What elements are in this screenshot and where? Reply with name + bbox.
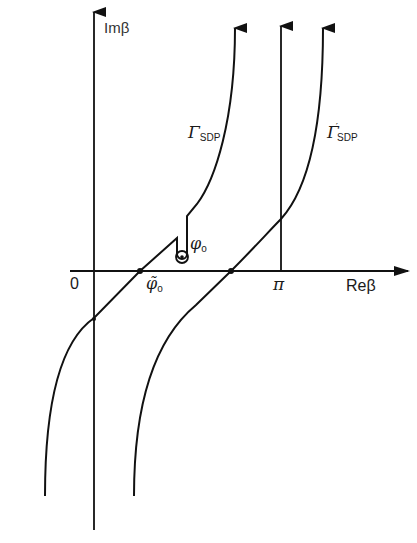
real-axis-label: Reβ [346,278,376,294]
imaginary-axis-label: Imβ [104,20,129,35]
phi0-tilde-symbol: φ̃ [146,274,157,293]
phi0-symbol: φ [190,234,201,253]
gamma-sdp-subscript: SDP [200,132,221,143]
saddle-point-phi0-tilde [137,268,143,274]
origin-label: 0 [70,276,79,292]
gamma-sdp-symbol: Γ [188,122,200,142]
phi0-tilde-label: φ̃o [146,276,163,294]
contour-diagram [0,0,417,543]
gamma-sdp-contour [45,28,235,496]
phi0-label: φo [190,236,207,254]
gamma-sdp-prime-contour [134,28,323,496]
pole-phi0-dot [180,255,184,259]
gamma-sdp-prime-subscript: SDP [337,132,358,143]
phi0-subscript: o [201,243,207,254]
saddle-point-right [228,268,234,274]
gamma-sdp-prime-label: Γ′SDP [327,124,358,143]
phi0-tilde-subscript: o [157,283,163,294]
gamma-sdp-label: ΓSDP [188,124,220,143]
axis-intersection [92,317,96,321]
gamma-sdp-prime-mark: ′ [336,121,338,132]
pi-label: π [273,276,284,293]
